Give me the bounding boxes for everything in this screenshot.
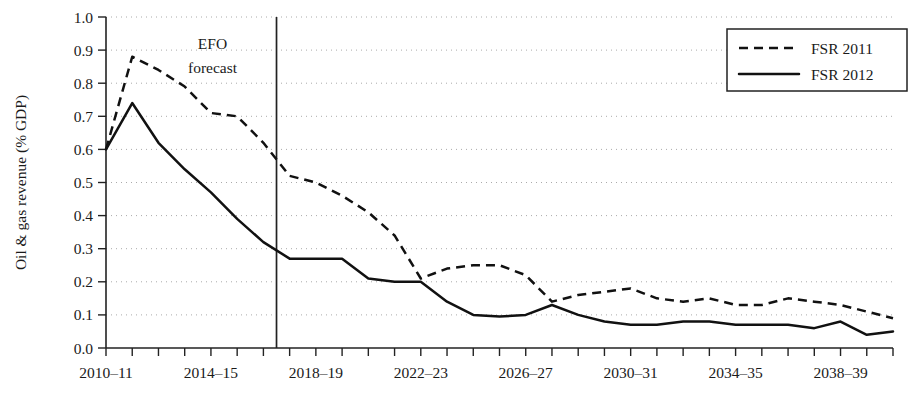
chart-container: 0.00.10.20.30.40.50.60.70.80.91.0 2010–1… <box>0 0 922 412</box>
data-series-group <box>106 57 893 335</box>
legend-label-fsr-2012: FSR 2012 <box>811 66 873 83</box>
y-axis-tick-label: 0.1 <box>74 306 93 323</box>
y-axis-tick-label: 0.0 <box>74 340 94 357</box>
chart-legend: FSR 2011 FSR 2012 <box>727 29 907 91</box>
y-axis-tick-label: 0.6 <box>74 141 94 158</box>
efo-forecast-label-line2: forecast <box>188 59 238 76</box>
x-axis-tick-label: 2010–11 <box>79 364 133 381</box>
y-axis-tick-label: 0.5 <box>74 174 94 191</box>
series-line-fsr-2011 <box>106 57 893 318</box>
line-chart: 0.00.10.20.30.40.50.60.70.80.91.0 2010–1… <box>0 0 922 412</box>
y-axis-tick-label: 0.2 <box>74 273 93 290</box>
x-axis-ticks-group <box>106 348 893 356</box>
y-axis-tick-label: 0.7 <box>74 108 94 125</box>
y-axis-tick-label: 0.8 <box>74 75 94 92</box>
y-axis-title: Oil & gas revenue (% GDP) <box>12 95 30 270</box>
y-axis-title-text: Oil & gas revenue (% GDP) <box>12 95 30 270</box>
y-axis-tick-labels: 0.00.10.20.30.40.50.60.70.80.91.0 <box>74 9 94 357</box>
x-axis-tick-label: 2038–39 <box>813 364 868 381</box>
x-axis-tick-label: 2026–27 <box>499 364 554 381</box>
x-axis-tick-label: 2018–19 <box>289 364 344 381</box>
y-axis-ticks-group <box>98 17 106 348</box>
efo-forecast-label-line1: EFO <box>198 35 227 52</box>
y-axis-tick-label: 0.3 <box>74 240 94 257</box>
x-axis-tick-label: 2014–15 <box>184 364 239 381</box>
y-axis-tick-label: 0.4 <box>74 207 94 224</box>
legend-label-fsr-2011: FSR 2011 <box>811 40 873 57</box>
y-axis-tick-label: 1.0 <box>74 9 94 26</box>
series-line-fsr-2012 <box>106 103 893 335</box>
x-axis-tick-label: 2034–35 <box>708 364 763 381</box>
y-axis-tick-label: 0.9 <box>74 42 94 59</box>
x-axis-tick-label: 2022–23 <box>394 364 449 381</box>
x-axis-tick-labels: 2010–112014–152018–192022–232026–272030–… <box>79 364 868 381</box>
x-axis-tick-label: 2030–31 <box>604 364 658 381</box>
